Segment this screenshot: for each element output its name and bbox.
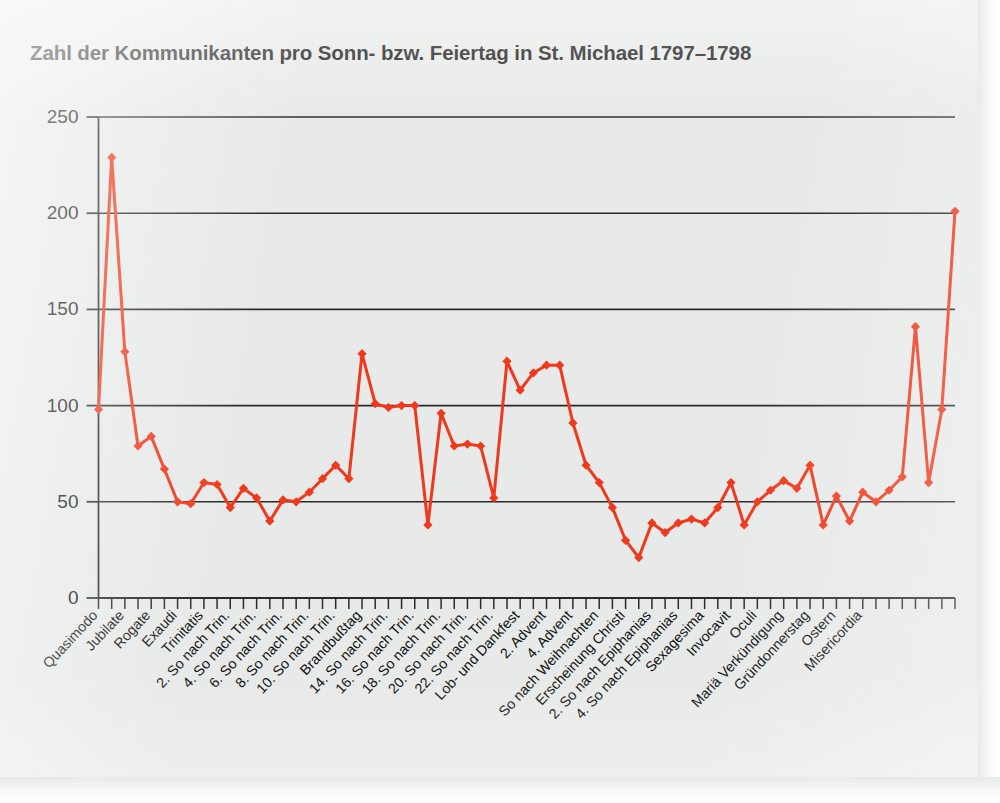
data-point-marker[interactable] [423, 520, 432, 529]
plot-area: 050100150200250QuasimodoJubilateRogateEx… [0, 0, 1000, 803]
data-point-marker[interactable] [160, 464, 169, 473]
data-point-marker[interactable] [107, 153, 116, 162]
data-point-marker[interactable] [463, 439, 472, 448]
page-edge-bottom [0, 777, 1000, 803]
y-axis-label-150: 150 [47, 298, 79, 319]
data-point-marker[interactable] [950, 207, 959, 216]
data-point-marker[interactable] [371, 399, 380, 408]
y-axis-label-50: 50 [57, 491, 78, 512]
data-series-line [99, 157, 956, 557]
data-point-marker[interactable] [450, 441, 459, 450]
page-edge-right [978, 0, 1000, 803]
y-axis-label-200: 200 [47, 202, 79, 223]
data-point-marker[interactable] [173, 497, 182, 506]
data-point-marker[interactable] [384, 403, 393, 412]
data-point-marker[interactable] [476, 441, 485, 450]
data-point-marker[interactable] [437, 409, 446, 418]
data-point-marker[interactable] [924, 478, 933, 487]
data-point-marker[interactable] [819, 520, 828, 529]
data-point-marker[interactable] [911, 322, 920, 331]
line-chart: 050100150200250QuasimodoJubilateRogateEx… [0, 0, 1000, 803]
scanned-chart-page: Zahl der Kommunikanten pro Sonn- bzw. Fe… [0, 0, 1000, 803]
data-point-marker[interactable] [568, 418, 577, 427]
data-point-marker[interactable] [410, 401, 419, 410]
data-point-marker[interactable] [687, 515, 696, 524]
data-point-marker[interactable] [397, 401, 406, 410]
data-point-marker[interactable] [502, 357, 511, 366]
y-axis-label-250: 250 [47, 106, 79, 127]
data-point-marker[interactable] [555, 361, 564, 370]
y-axis-label-0: 0 [68, 587, 79, 608]
data-point-marker[interactable] [120, 347, 129, 356]
y-axis-label-100: 100 [47, 395, 79, 416]
data-point-marker[interactable] [357, 349, 366, 358]
